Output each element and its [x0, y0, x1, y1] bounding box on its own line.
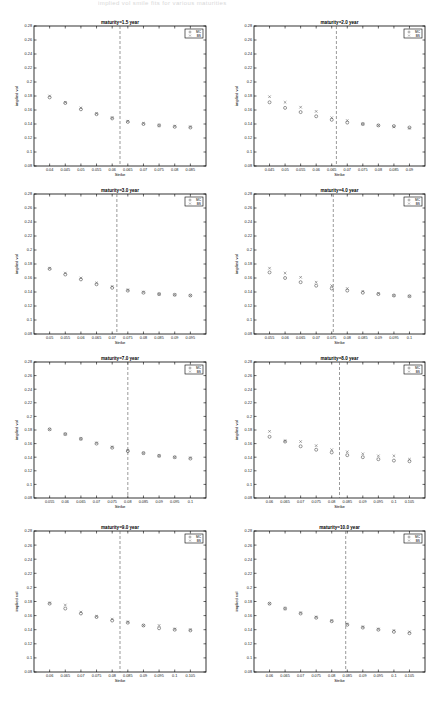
y-tick-label: 0.18 [25, 428, 32, 432]
x-tick-label: 0.07 [140, 168, 147, 172]
y-tick-label: 0.16 [245, 442, 252, 446]
x-tick-label: 0.09 [359, 500, 366, 504]
x-tick-label: 0.085 [358, 336, 368, 340]
chart-panel-4: maturity=4.0 year0.080.10.120.140.160.18… [226, 184, 440, 358]
y-tick-label: 0.18 [25, 262, 32, 266]
y-tick-label: 0.24 [25, 220, 32, 224]
y-tick-label: 0.14 [245, 456, 252, 460]
y-tick-label: 0.18 [245, 600, 252, 604]
scatter-plot: maturity=9.0 year0.080.10.120.140.160.18… [6, 521, 220, 692]
y-axis-label: implied vol [234, 254, 239, 274]
y-tick-label: 0.2 [27, 586, 32, 590]
x-tick-label: 0.085 [389, 168, 399, 172]
chart-panel-6: maturity=8.0 year0.080.10.120.140.160.18… [226, 352, 440, 522]
y-tick-label: 0.08 [25, 496, 32, 500]
x-tick-label: 0.06 [46, 674, 53, 678]
x-axis-label: Strike [334, 504, 345, 509]
x-tick-label: 0.08 [140, 336, 147, 340]
y-tick-label: 0.12 [245, 136, 252, 140]
y-tick-label: 0.08 [245, 496, 252, 500]
y-tick-label: 0.28 [245, 192, 252, 196]
legend: MCBS [404, 534, 422, 543]
y-tick-label: 0.18 [245, 428, 252, 432]
x-tick-label: 0.06 [312, 168, 319, 172]
y-tick-label: 0.14 [245, 290, 252, 294]
x-tick-label: 0.095 [186, 336, 196, 340]
x-tick-label: 0.09 [359, 674, 366, 678]
y-tick-label: 0.16 [25, 614, 32, 618]
x-tick-label: 0.08 [375, 168, 382, 172]
y-tick-label: 0.28 [245, 360, 252, 364]
y-tick-label: 0.08 [245, 670, 252, 674]
y-tick-label: 0.08 [245, 332, 252, 336]
y-tick-label: 0.1 [27, 150, 32, 154]
y-tick-label: 0.24 [245, 52, 252, 56]
chart-panel-1: maturity=1.5 year0.080.10.120.140.160.18… [6, 16, 220, 190]
y-tick-label: 0.14 [25, 456, 32, 460]
y-tick-label: 0.14 [25, 122, 32, 126]
y-tick-label: 0.24 [245, 558, 252, 562]
x-tick-label: 0.055 [265, 336, 275, 340]
scatter-plot: maturity=3.0 year0.080.10.120.140.160.18… [6, 184, 220, 354]
y-tick-label: 0.12 [245, 304, 252, 308]
x-axis-label: Strike [115, 172, 126, 177]
legend-entry-label: BS [197, 539, 201, 543]
y-tick-label: 0.2 [247, 586, 252, 590]
y-tick-label: 0.26 [245, 374, 252, 378]
legend-entry-label: BS [416, 370, 420, 374]
x-tick-label: 0.075 [358, 168, 368, 172]
chart-title: maturity=9.0 year [101, 525, 139, 530]
y-tick-label: 0.12 [25, 642, 32, 646]
x-tick-label: 0.065 [61, 674, 71, 678]
y-tick-label: 0.14 [25, 290, 32, 294]
x-tick-label: 0.06 [77, 336, 84, 340]
y-tick-label: 0.22 [25, 572, 32, 576]
y-axis-label: implied vol [14, 86, 19, 106]
x-tick-label: 0.075 [154, 168, 164, 172]
y-tick-label: 0.24 [25, 558, 32, 562]
legend: MCBS [185, 534, 203, 543]
x-tick-label: 0.09 [171, 336, 178, 340]
legend: MCBS [404, 365, 422, 374]
y-tick-label: 0.22 [245, 234, 252, 238]
x-tick-label: 0.07 [312, 336, 319, 340]
chart-title: maturity=1.5 year [101, 20, 139, 25]
chart-title: maturity=2.0 year [321, 20, 359, 25]
y-tick-label: 0.14 [245, 122, 252, 126]
y-tick-label: 0.24 [25, 388, 32, 392]
x-tick-label: 0.075 [311, 500, 321, 504]
x-tick-label: 0.075 [92, 674, 102, 678]
x-tick-label: 0.1 [172, 674, 177, 678]
y-tick-label: 0.2 [247, 415, 252, 419]
x-tick-label: 0.095 [389, 336, 399, 340]
plot-area [254, 26, 425, 166]
chart-panel-5: maturity=7.0 year0.080.10.120.140.160.18… [6, 352, 220, 522]
legend: MCBS [404, 29, 422, 38]
y-tick-label: 0.2 [247, 80, 252, 84]
y-tick-label: 0.26 [245, 544, 252, 548]
chart-panel-2: maturity=2.0 year0.080.10.120.140.160.18… [226, 16, 440, 190]
y-tick-label: 0.1 [247, 483, 252, 487]
x-axis-label: Strike [334, 172, 345, 177]
y-tick-label: 0.24 [25, 52, 32, 56]
y-tick-label: 0.16 [245, 614, 252, 618]
y-tick-label: 0.24 [245, 220, 252, 224]
y-tick-label: 0.14 [25, 628, 32, 632]
y-tick-label: 0.2 [27, 80, 32, 84]
chart-panel-7: maturity=9.0 year0.080.10.120.140.160.18… [6, 521, 220, 696]
legend: MCBS [404, 197, 422, 206]
y-axis-label: implied vol [234, 592, 239, 612]
x-tick-label: 0.05 [46, 336, 53, 340]
scatter-plot: maturity=1.5 year0.080.10.120.140.160.18… [6, 16, 220, 186]
legend: MCBS [185, 29, 203, 38]
y-tick-label: 0.12 [245, 469, 252, 473]
y-tick-label: 0.22 [245, 401, 252, 405]
x-tick-label: 0.05 [281, 168, 288, 172]
x-tick-label: 0.105 [186, 674, 196, 678]
y-tick-label: 0.28 [25, 529, 32, 533]
x-axis-label: Strike [334, 340, 345, 345]
y-tick-label: 0.12 [25, 136, 32, 140]
y-axis-label: implied vol [234, 420, 239, 440]
legend: MCBS [185, 197, 203, 206]
y-tick-label: 0.1 [247, 318, 252, 322]
